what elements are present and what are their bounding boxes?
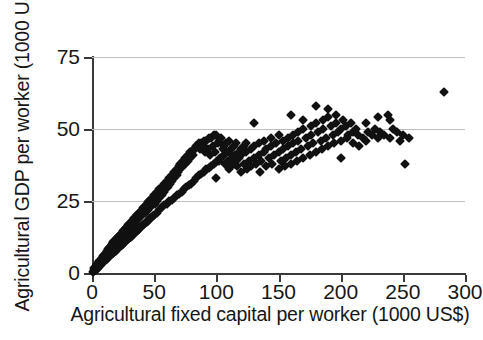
- y-tick-75: [84, 57, 92, 59]
- x-tick-label-300: 300: [430, 281, 483, 302]
- y-tick-label-0: 0: [20, 262, 80, 283]
- x-axis-title: Agricultural fixed capital per worker (1…: [60, 303, 480, 326]
- data-point: [286, 110, 296, 120]
- x-tick-label-150: 150: [244, 281, 314, 302]
- data-point: [385, 115, 395, 125]
- y-tick-50: [84, 129, 92, 131]
- y-tick-label-75: 75: [20, 46, 80, 67]
- y-tick-label-50: 50: [20, 118, 80, 139]
- data-point: [311, 101, 321, 111]
- gridline-y-75: [92, 57, 465, 58]
- data-point: [211, 173, 221, 183]
- data-point: [373, 113, 383, 123]
- x-tick-label-0: 0: [57, 281, 127, 302]
- x-tick-label-50: 50: [119, 281, 189, 302]
- x-tick-label-200: 200: [306, 281, 376, 302]
- y-tick-label-25: 25: [20, 190, 80, 211]
- data-point: [400, 159, 410, 169]
- x-tick-label-250: 250: [368, 281, 438, 302]
- data-point: [439, 87, 449, 97]
- data-point: [336, 153, 346, 163]
- data-point: [249, 118, 259, 128]
- y-tick-25: [84, 201, 92, 203]
- data-point: [361, 118, 371, 128]
- scatter-chart-figure: Agricultural GDP per worker (1000 US$) 7…: [0, 0, 483, 340]
- x-tick-label-100: 100: [181, 281, 251, 302]
- plot-area: [92, 57, 465, 273]
